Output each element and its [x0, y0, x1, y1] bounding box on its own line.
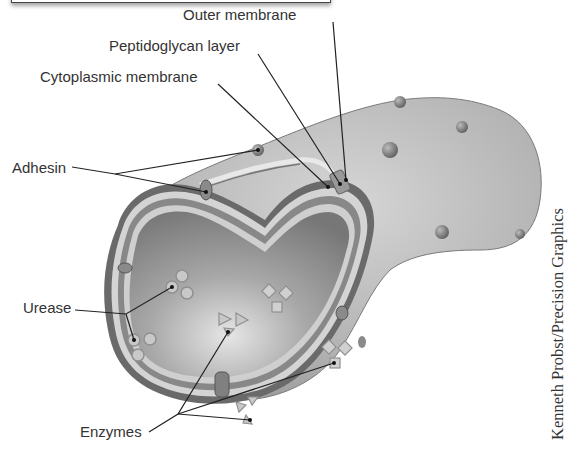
label-outer-membrane: Outer membrane [183, 6, 296, 23]
label-peptidoglycan-layer: Peptidoglycan layer [109, 37, 240, 54]
image-credit: Kenneth Probst/Precision Graphics [548, 208, 568, 440]
label-cytoplasmic-membrane: Cytoplasmic membrane [40, 68, 198, 85]
label-urease: Urease [23, 299, 71, 316]
cross-section [104, 180, 374, 404]
label-enzymes: Enzymes [80, 423, 142, 440]
label-adhesin: Adhesin [12, 159, 66, 176]
